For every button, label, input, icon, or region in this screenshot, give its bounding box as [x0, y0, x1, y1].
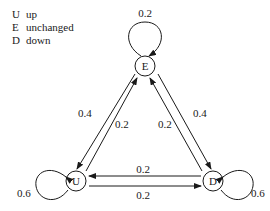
- node-d: D: [203, 171, 223, 191]
- svg-text:0.2: 0.2: [115, 118, 129, 130]
- svg-text:0.2: 0.2: [136, 163, 150, 175]
- edge-u-u: 0.6: [17, 170, 68, 199]
- svg-text:0.6: 0.6: [17, 187, 31, 199]
- svg-text:D: D: [209, 175, 217, 187]
- edge-u-d: 0.2: [89, 186, 201, 201]
- node-e: E: [135, 56, 155, 76]
- edge-d-d: 0.6: [221, 170, 265, 199]
- state-diagram: E U D 0.2 0.6 0.6 0.4 0.2 0.2 0.4: [0, 0, 270, 211]
- edge-d-e: 0.2: [150, 78, 202, 171]
- svg-text:0.2: 0.2: [136, 189, 150, 201]
- edge-d-u: 0.2: [89, 163, 201, 176]
- svg-text:U: U: [72, 175, 80, 187]
- svg-text:0.2: 0.2: [158, 118, 172, 130]
- svg-text:0.4: 0.4: [193, 107, 207, 119]
- edge-u-e: 0.2: [86, 78, 137, 171]
- svg-text:0.2: 0.2: [138, 7, 152, 19]
- edge-e-e: 0.2: [129, 7, 162, 56]
- node-u: U: [66, 171, 86, 191]
- svg-text:0.4: 0.4: [78, 107, 92, 119]
- svg-text:0.6: 0.6: [251, 187, 265, 199]
- svg-text:E: E: [142, 60, 149, 72]
